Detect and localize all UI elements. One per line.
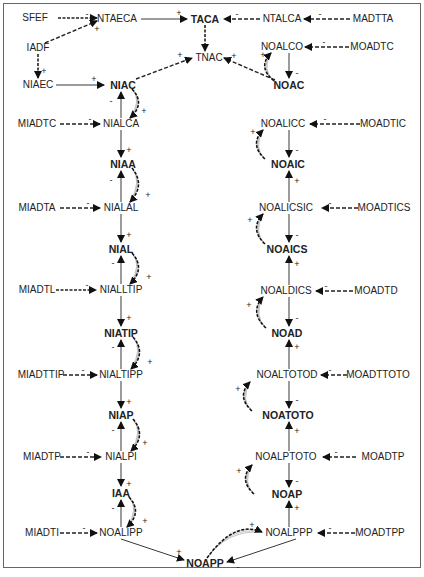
node-miadtc: MIADTC (18, 119, 56, 129)
edge-polarity-sign: - (335, 448, 338, 457)
loop-polarity-sign: + (246, 301, 251, 310)
edge-polarity-sign: + (176, 9, 181, 18)
edge-polarity-sign: + (294, 427, 299, 436)
edge-polarity-sign: - (329, 524, 332, 533)
loop-polarity-sign: + (141, 107, 146, 116)
node-tnac: TNAC (195, 53, 222, 63)
edge-polarity-sign: - (110, 176, 113, 185)
edge-polarity-sign: - (237, 563, 240, 572)
edge-polarity-sign: + (126, 398, 131, 407)
node-niap: NIAP (108, 410, 133, 421)
node-miadta: MIADTA (18, 203, 55, 213)
edge-polarity-sign: + (294, 343, 299, 352)
edge-polarity-sign: - (82, 366, 85, 375)
edge-polarity-sign: - (87, 199, 90, 208)
edge-arrow (227, 539, 296, 562)
loop-polarity-sign: + (260, 51, 265, 60)
loop-polarity-sign: + (235, 385, 240, 394)
edge-polarity-sign: - (319, 10, 322, 19)
edge-polarity-sign: - (296, 396, 299, 405)
node-ntalca: NTALCA (263, 14, 302, 24)
edge-polarity-sign: - (324, 115, 327, 124)
edge-polarity-sign: + (294, 177, 299, 186)
edge-polarity-sign: - (325, 282, 328, 291)
node-iadf: IADF (27, 43, 50, 53)
edge-polarity-sign: - (112, 259, 115, 268)
feedback-loop-fan (207, 532, 262, 558)
edge-polarity-sign: + (126, 231, 131, 240)
feedback-loop-fan (207, 531, 262, 558)
edge-arrow (224, 58, 275, 80)
node-moadtd: MOADTD (354, 286, 397, 296)
node-ntaeca: NTAECA (97, 14, 137, 24)
edge-polarity-sign: - (112, 504, 115, 513)
loop-polarity-sign: + (142, 517, 147, 526)
node-moadtp2: MOADTP (362, 452, 405, 462)
edge-polarity-sign: - (329, 366, 332, 375)
edge-polarity-sign: + (177, 51, 182, 60)
node-miadttip: MIADTTIP (18, 370, 65, 380)
node-noad: NOAD (272, 328, 303, 339)
loop-polarity-sign: + (146, 273, 151, 282)
edge-polarity-sign: + (294, 504, 299, 513)
edge-polarity-sign: + (294, 260, 299, 269)
edge-polarity-sign: - (296, 146, 299, 155)
node-moadtpp: MOADTPP (355, 528, 404, 538)
node-noalptoto: NOALPTOTO (255, 452, 316, 462)
edge-polarity-sign: - (236, 10, 239, 19)
node-noalipp: NOALIPP (99, 528, 142, 538)
edge-polarity-sign: + (231, 52, 236, 61)
node-nialltip: NIALLTIP (100, 285, 143, 295)
node-miadtl: MIADTL (19, 285, 56, 295)
node-taca: TACA (191, 14, 219, 25)
feedback-loop-fan (207, 529, 262, 558)
edge-polarity-sign: - (86, 281, 89, 290)
node-madtta: MADTTA (353, 14, 393, 24)
edge-polarity-sign: - (323, 38, 326, 47)
edge-polarity-sign: - (86, 10, 89, 19)
node-nialal: NIALAL (104, 203, 138, 213)
node-miadtp: MIADTP (23, 452, 61, 462)
node-noac: NOAC (274, 80, 305, 91)
edge-polarity-sign: + (91, 75, 96, 84)
edge-polarity-sign: - (112, 343, 115, 352)
edge-polarity-sign: + (126, 314, 131, 323)
node-niac: NIAC (110, 80, 136, 91)
node-noap: NOAP (272, 489, 302, 500)
node-noaics: NOAICS (267, 244, 308, 255)
node-moadtic: MOADTIC (360, 119, 406, 129)
edge-polarity-sign: - (296, 231, 299, 240)
feedback-loop-arrow (207, 529, 262, 558)
node-niatip: NIATIP (104, 328, 138, 339)
node-niaec: NIAEC (23, 80, 54, 90)
node-moadttoto: MOADTTOTO (346, 370, 410, 380)
edge-polarity-sign: - (329, 199, 332, 208)
node-noalicc: NOALICC (261, 119, 305, 129)
loop-polarity-sign: + (247, 216, 252, 225)
node-nial: NIAL (109, 244, 134, 255)
node-noalco: NOALCO (261, 42, 303, 52)
node-sfef: SFEF (22, 13, 48, 23)
node-nialca: NIALCA (103, 119, 139, 129)
node-nialtipp: NIALTIPP (99, 370, 143, 380)
loop-polarity-sign: + (145, 191, 150, 200)
node-noalppp: NOALPPP (265, 528, 312, 538)
edge-polarity-sign: + (126, 480, 131, 489)
loop-polarity-sign: + (147, 358, 152, 367)
loop-polarity-sign: + (142, 439, 147, 448)
edge-arrow (121, 539, 184, 560)
node-noatoto: NOATOTO (262, 410, 313, 421)
edge-polarity-sign: - (83, 524, 86, 533)
edge-polarity-sign: - (296, 314, 299, 323)
edge-polarity-sign: - (89, 115, 92, 124)
edge-arrow (45, 21, 97, 43)
edge-polarity-sign: + (41, 67, 46, 76)
node-noalicsic: NOALICSIC (259, 203, 313, 213)
node-noapp: NOAPP (186, 558, 223, 569)
edge-polarity-sign: - (296, 477, 299, 486)
edge-polarity-sign: + (176, 548, 181, 557)
edge-polarity-sign: + (94, 25, 99, 34)
loop-polarity-sign: + (236, 467, 241, 476)
edge-polarity-sign: - (296, 69, 299, 78)
edge-polarity-sign: - (112, 426, 115, 435)
